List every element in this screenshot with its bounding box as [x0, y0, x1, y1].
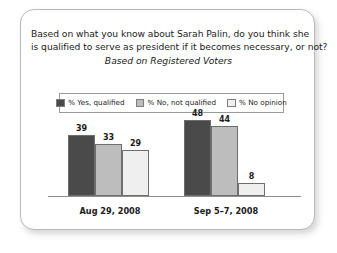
- chart-baseline-axis: [48, 196, 301, 197]
- bar-yes-qualified[interactable]: [184, 120, 211, 196]
- bar-value-label: 29: [122, 139, 149, 148]
- bar-group-bars: 48 44 8: [184, 120, 265, 196]
- bar-value-label: 44: [211, 115, 238, 124]
- bar-group-bars: 39 33 29: [68, 135, 149, 196]
- bar-value-label: 8: [238, 172, 265, 181]
- bar-yes-qualified[interactable]: [68, 135, 95, 196]
- bar-no-not-qualified[interactable]: [95, 144, 122, 196]
- screenshot-root: Based on what you know about Sarah Palin…: [0, 0, 337, 253]
- bar-no-not-qualified[interactable]: [211, 126, 238, 196]
- category-label-sep-5-7-2008: Sep 5–7, 2008: [173, 206, 279, 216]
- bar-item[interactable]: 33: [95, 144, 122, 196]
- bar-value-label: 39: [68, 124, 95, 133]
- chart-card: Based on what you know about Sarah Palin…: [20, 9, 315, 230]
- bar-item[interactable]: 48: [184, 120, 211, 196]
- bar-item[interactable]: 29: [122, 150, 149, 196]
- chart-plot-area: 39 33 29 48: [21, 10, 316, 231]
- bar-value-label: 48: [184, 109, 211, 118]
- category-label-aug-29-2008: Aug 29, 2008: [57, 206, 163, 216]
- bar-item[interactable]: 44: [211, 126, 238, 196]
- bar-value-label: 33: [95, 133, 122, 142]
- bar-no-opinion[interactable]: [122, 150, 149, 196]
- bar-item[interactable]: 8: [238, 183, 265, 196]
- bar-no-opinion[interactable]: [238, 183, 265, 196]
- bar-item[interactable]: 39: [68, 135, 95, 196]
